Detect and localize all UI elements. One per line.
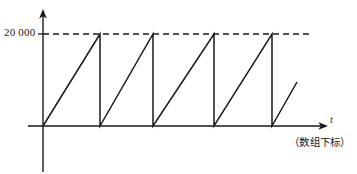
x-axis-caption: （数组下标） <box>289 137 351 148</box>
x-axis-variable-label: t <box>330 115 333 125</box>
sawtooth-chart-figure: 20 000 t （数组下标） <box>0 0 357 174</box>
sawtooth-waveform <box>43 34 297 126</box>
threshold-value-label: 20 000 <box>4 27 35 38</box>
